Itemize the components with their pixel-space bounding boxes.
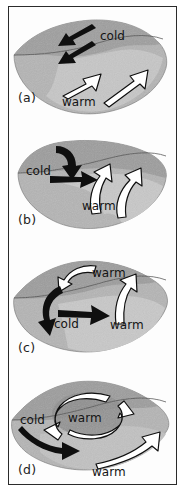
panel-a-warm-label: warm	[62, 95, 96, 109]
panel-b-label: (b)	[18, 212, 36, 227]
panel-c-warm-label-right: warm	[110, 318, 144, 332]
panel-a-cold-label: cold	[100, 29, 125, 43]
panel-a: cold warm	[0, 8, 188, 126]
panel-d-warm-label-bottom: warm	[92, 465, 126, 479]
panel-c-cold-label: cold	[54, 317, 79, 331]
panel-d-cold-label: cold	[20, 413, 45, 427]
panel-d-warm-label-center: warm	[68, 411, 102, 425]
panel-b-warm-label: warm	[82, 199, 116, 213]
panel-d-label: (d)	[18, 462, 36, 477]
figure-container: cold warm (a)	[0, 0, 188, 502]
panel-b-section	[18, 140, 166, 228]
panel-c-section	[14, 261, 168, 352]
panel-b: cold warm	[0, 128, 188, 246]
panel-b-cold-label: cold	[26, 164, 51, 178]
panel-a-label: (a)	[18, 90, 36, 105]
panel-c-warm-label-top: warm	[92, 266, 126, 280]
panel-c-label: (c)	[18, 340, 35, 355]
